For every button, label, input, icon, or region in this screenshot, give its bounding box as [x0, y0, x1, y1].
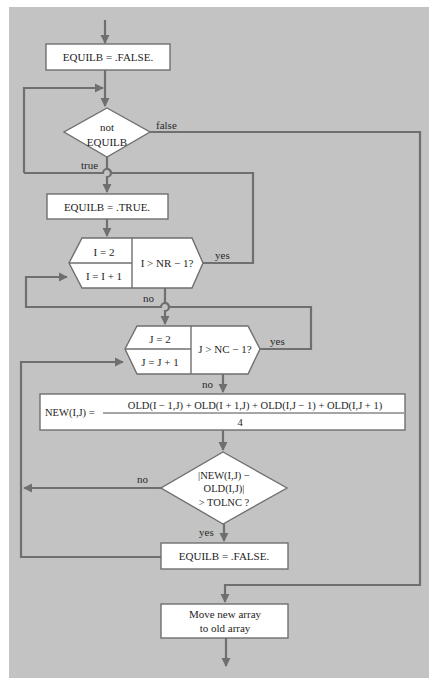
tolerance-line2: OLD(I,J)| — [204, 483, 245, 495]
tolerance-line1: |NEW(I,J) − — [198, 470, 250, 482]
set-true-label: EQUILB = .TRUE. — [64, 201, 150, 213]
edge-label-j-yes: yes — [270, 335, 285, 347]
i-loop-test: I > NR − 1? — [141, 257, 194, 269]
tolerance-line3: > TOLNC ? — [199, 497, 250, 508]
i-loop-increment: I = I + 1 — [86, 270, 122, 282]
edge-label-true: true — [81, 159, 98, 171]
set-false-label: EQUILB = .FALSE. — [179, 550, 270, 562]
update-denominator: 4 — [237, 417, 243, 428]
i-loop-block: I = 2 I = I + 1 I > NR − 1? — [69, 238, 203, 288]
edge-label-i-yes: yes — [215, 249, 230, 261]
j-loop-block: J = 2 J = J + 1 J > NC − 1? — [125, 326, 260, 374]
init-box: EQUILB = .FALSE. — [46, 44, 170, 70]
while-decision-line2: EQUILB — [87, 136, 127, 148]
update-numerator: OLD(I − 1,J) + OLD(I + 1,J) + OLD(I,J − … — [128, 400, 383, 412]
move-array-line1: Move new array — [189, 608, 262, 620]
init-label: EQUILB = .FALSE. — [63, 51, 154, 63]
update-lhs: NEW(I,J) = — [45, 407, 95, 419]
edge-label-j-no: no — [202, 378, 214, 390]
edge-label-i-no: no — [143, 292, 155, 304]
flowchart: EQUILB = .FALSE. not EQUILB false true E… — [0, 0, 436, 686]
set-true-box: EQUILB = .TRUE. — [47, 194, 168, 219]
j-loop-init: J = 2 — [149, 333, 170, 345]
update-box: NEW(I,J) = OLD(I − 1,J) + OLD(I + 1,J) +… — [40, 394, 405, 430]
j-loop-increment: J = J + 1 — [141, 356, 178, 368]
edge-label-tol-yes: yes — [199, 526, 214, 538]
move-array-box: Move new array to old array — [161, 604, 288, 638]
i-loop-init: I = 2 — [94, 246, 115, 258]
while-decision-line1: not — [100, 121, 114, 133]
move-array-line2: to old array — [200, 622, 251, 634]
j-loop-test: J > NC − 1? — [198, 343, 251, 355]
edge-label-tol-no: no — [137, 473, 149, 485]
edge-label-false: false — [156, 119, 177, 131]
set-false-box: EQUILB = .FALSE. — [161, 543, 288, 569]
